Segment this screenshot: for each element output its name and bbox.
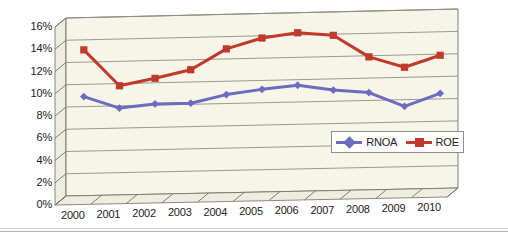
data-point-roe-2007	[330, 32, 337, 39]
legend-label-rnoa: RNOA	[366, 136, 397, 148]
diamond-icon	[343, 136, 356, 149]
x-axis-label: 2007	[302, 204, 342, 216]
y-axis-label: 16%	[14, 20, 52, 32]
chart-container: 0%2%4%6%8%10%12%14%16% 20002001200220032…	[0, 0, 508, 237]
x-axis-label: 2000	[53, 209, 93, 221]
data-point-roe-2004	[223, 45, 230, 52]
data-point-roe-2002	[151, 75, 158, 82]
data-point-roe-2009	[401, 64, 408, 71]
chart-legend[interactable]: RNOA ROE	[331, 131, 464, 153]
y-axis-label: 8%	[14, 109, 52, 121]
data-point-roe-2000	[80, 46, 87, 53]
divider-rule-upper	[0, 228, 508, 229]
legend-entry-roe[interactable]: ROE	[406, 136, 459, 148]
data-point-roe-2006	[294, 29, 301, 36]
x-axis-label: 2004	[195, 206, 235, 218]
legend-swatch-roe	[406, 136, 432, 148]
y-axis-label: 0%	[14, 198, 52, 210]
y-axis-label: 6%	[14, 131, 52, 143]
y-axis-label: 14%	[14, 42, 52, 54]
y-axis-label: 4%	[14, 154, 52, 166]
data-point-roe-2003	[187, 66, 194, 73]
x-axis-label: 2005	[231, 205, 271, 217]
data-point-roe-2005	[258, 34, 265, 41]
data-point-roe-2001	[116, 82, 123, 89]
legend-entry-rnoa[interactable]: RNOA	[336, 136, 397, 148]
legend-swatch-rnoa	[336, 136, 362, 148]
square-icon	[415, 138, 424, 147]
y-axis-label: 10%	[14, 87, 52, 99]
y-axis-label: 12%	[14, 65, 52, 77]
x-axis-label: 2003	[160, 206, 200, 218]
x-axis-label: 2008	[338, 203, 378, 215]
data-point-roe-2008	[365, 53, 372, 60]
data-point-roe-2010	[437, 52, 444, 59]
x-axis-label: 2010	[409, 201, 449, 213]
x-axis-label: 2002	[124, 207, 164, 219]
divider-rule-lower	[0, 231, 508, 232]
legend-label-roe: ROE	[436, 136, 459, 148]
x-axis-label: 2006	[267, 204, 307, 216]
x-axis-label: 2009	[374, 202, 414, 214]
x-axis-label: 2001	[88, 208, 128, 220]
y-axis-label: 2%	[14, 176, 52, 188]
